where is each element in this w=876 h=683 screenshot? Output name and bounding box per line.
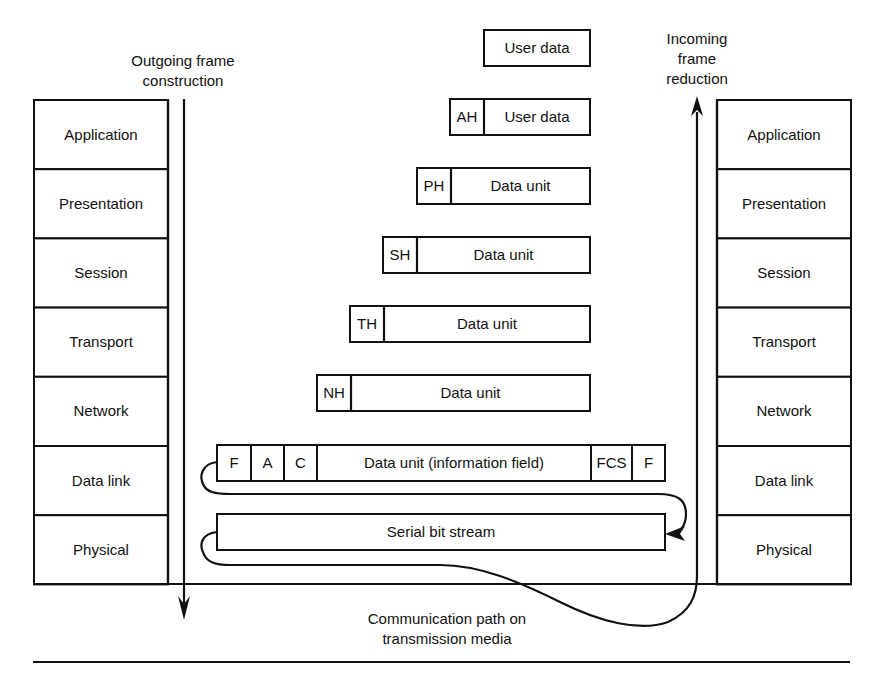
left-layer-physical: Physical [34,515,168,584]
unit-body: Data unit [473,246,534,263]
right-layer-application: Application [717,100,851,169]
unit-header: NH [323,384,345,401]
unit-header: TH [357,315,377,332]
arrow-down-icon [178,99,190,620]
osi-encapsulation-diagram: Outgoing frame construction Incoming fra… [0,0,876,683]
data-link-frame: FACData unit (information field)FCSF [217,445,665,481]
layer-label: Transport [752,333,816,350]
unit-body: User data [504,39,570,56]
unit-body: User data [504,108,570,125]
media-caption-line2: transmission media [382,630,512,647]
layer-label: Data link [72,472,131,489]
left-layer-session: Session [34,238,168,307]
unit-body: Data unit [440,384,501,401]
unit-body: Data unit [490,177,551,194]
layer-label: Network [73,402,129,419]
frame-field-label: FCS [597,454,627,471]
unit-header: AH [457,108,478,125]
layer-label: Data link [755,472,814,489]
layer-label: Session [74,264,127,281]
layer-label: Session [757,264,810,281]
right-layer-transport: Transport [717,308,851,377]
outgoing-caption-line2: construction [143,72,224,89]
layer-label: Network [756,402,812,419]
left-layer-data-link: Data link [34,446,168,515]
layer-label: Presentation [742,195,826,212]
right-layer-presentation: Presentation [717,169,851,238]
frame-field-label: A [262,454,272,471]
right-layer-network: Network [717,377,851,446]
frame-field: Data unit (information field) [317,445,591,481]
left-layer-transport: Transport [34,308,168,377]
right-layer-data-link: Data link [717,446,851,515]
media-caption-line1: Communication path on [368,610,526,627]
layer-label: Physical [73,541,129,558]
encapsulation-unit: NHData unit [317,375,590,411]
right-layer-session: Session [717,238,851,307]
encapsulation-unit: PHData unit [417,168,590,204]
layer-label: Application [747,126,820,143]
left-layer-presentation: Presentation [34,169,168,238]
frame-field: A [251,445,284,481]
unit-header: SH [390,246,411,263]
right-layer-physical: Physical [717,515,851,584]
encapsulation-unit: User data [484,30,590,66]
serial-bit-stream: Serial bit stream [217,514,665,550]
frame-field-label: F [229,454,238,471]
layer-label: Application [64,126,137,143]
frame-field: F [632,445,665,481]
encapsulation-unit: THData unit [350,306,590,342]
incoming-caption-line2: frame [678,50,716,67]
right-layer-stack: ApplicationPresentationSessionTransportN… [717,100,851,584]
encapsulation-unit: SHData unit [383,237,590,273]
frame-field-label: Data unit (information field) [364,454,544,471]
left-layer-application: Application [34,100,168,169]
left-layer-stack: ApplicationPresentationSessionTransportN… [34,100,168,584]
frame-field: F [217,445,251,481]
incoming-caption-line3: reduction [666,70,728,87]
frame-field: C [284,445,317,481]
encapsulation-units: User dataAHUser dataPHData unitSHData un… [317,30,590,411]
frame-field-label: F [644,454,653,471]
encapsulation-unit: AHUser data [450,99,590,135]
unit-header: PH [424,177,445,194]
layer-label: Transport [69,333,133,350]
layer-label: Physical [756,541,812,558]
layer-label: Presentation [59,195,143,212]
frame-field-label: C [295,454,306,471]
bitstream-label: Serial bit stream [387,523,495,540]
frame-field: FCS [591,445,632,481]
unit-body: Data unit [457,315,518,332]
outgoing-caption-line1: Outgoing frame [131,52,234,69]
left-layer-network: Network [34,377,168,446]
incoming-caption-line1: Incoming [667,30,728,47]
bitstream-arrowhead [665,526,685,541]
